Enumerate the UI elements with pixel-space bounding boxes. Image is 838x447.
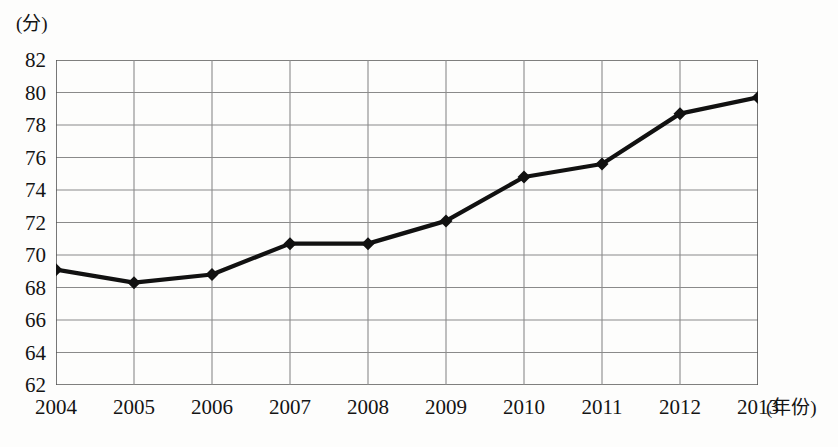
x-tick-label: 2011 bbox=[581, 395, 622, 420]
plot-area: 8280787674727068666462 20042005200620072… bbox=[56, 60, 758, 385]
x-axis-unit-label: (年份) bbox=[766, 392, 817, 419]
x-tick-label: 2006 bbox=[191, 395, 233, 420]
y-tick-label: 62 bbox=[25, 373, 46, 398]
data-point-marker bbox=[206, 268, 219, 281]
y-tick-label: 74 bbox=[25, 178, 46, 203]
x-tick-label: 2012 bbox=[659, 395, 701, 420]
y-tick-label: 82 bbox=[25, 48, 46, 73]
x-tick-label: 2008 bbox=[347, 395, 389, 420]
y-tick-label: 64 bbox=[25, 340, 46, 365]
y-tick-label: 80 bbox=[25, 80, 46, 105]
y-tick-label: 76 bbox=[25, 145, 46, 170]
line-chart-svg bbox=[56, 60, 758, 385]
y-tick-label: 72 bbox=[25, 210, 46, 235]
y-tick-label: 70 bbox=[25, 243, 46, 268]
data-point-marker bbox=[284, 237, 297, 250]
x-tick-label: 2007 bbox=[269, 395, 311, 420]
chart-page: (分) 8280787674727068666462 2004200520062… bbox=[0, 0, 838, 447]
x-tick-label: 2009 bbox=[425, 395, 467, 420]
data-point-marker bbox=[362, 237, 375, 250]
x-tick-label: 2010 bbox=[503, 395, 545, 420]
y-axis-unit-label: (分) bbox=[16, 8, 48, 35]
y-tick-label: 68 bbox=[25, 275, 46, 300]
y-tick-label: 78 bbox=[25, 113, 46, 138]
data-point-marker bbox=[56, 263, 63, 276]
x-tick-label: 2004 bbox=[35, 395, 77, 420]
y-tick-label: 66 bbox=[25, 308, 46, 333]
x-tick-label: 2005 bbox=[113, 395, 155, 420]
